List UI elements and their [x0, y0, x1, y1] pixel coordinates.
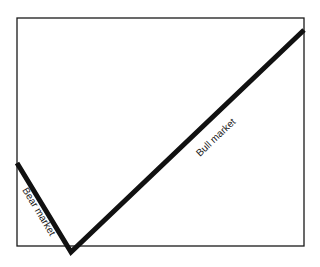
bull-market-label: Bull market [194, 116, 238, 159]
chart-frame [17, 18, 304, 246]
bear-market-label: Bear market [20, 185, 58, 237]
market-cycle-diagram: Bear market Bull market [0, 0, 320, 267]
market-trend-line [17, 30, 304, 252]
